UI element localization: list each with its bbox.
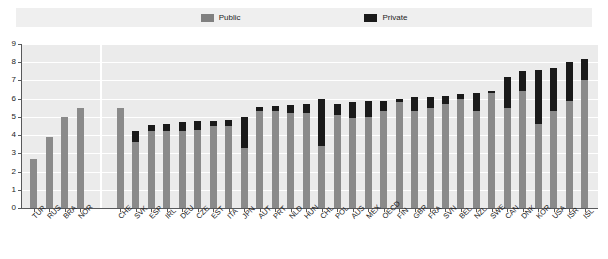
bar-segment-private [194,121,201,129]
bar-nor [77,108,84,208]
bar-segment-private [241,117,248,148]
bar-segment-public [473,111,480,208]
bar-segment-public [581,80,588,208]
bar-cze [194,121,201,208]
bar-est [210,121,217,208]
bar-segment-private [287,105,294,113]
bar-chl [318,99,325,208]
gridline [22,62,598,63]
bar-segment-private [318,99,325,146]
bar-segment-private [457,94,464,99]
bar-segment-public [194,130,201,208]
bar-rus [46,137,53,208]
bar-bel [457,94,464,208]
bar-segment-public [163,131,170,208]
bar-segment-public [380,111,387,208]
bar-fra [427,97,434,208]
legend-item-private: Private [364,13,407,22]
bar-oecd [380,101,387,209]
group-divider [100,44,102,208]
bar-hun [303,104,310,208]
bar-segment-public [287,113,294,208]
bar-gbr [411,97,418,208]
legend-swatch-private [364,14,377,22]
bar-bra [61,117,68,208]
bar-nzl [473,93,480,208]
bar-segment-private [334,104,341,115]
bar-fin [396,99,403,208]
bar-segment-private [427,97,434,108]
bar-segment-private [566,62,573,100]
bar-aut [256,107,263,208]
bar-svk [132,131,139,208]
bar-dnk [519,71,526,208]
bar-segment-public [411,111,418,208]
bar-segment-public [349,118,356,208]
bar-segment-private [550,68,557,112]
bar-segment-public [427,108,434,208]
bar-segment-public [457,99,464,208]
bar-segment-public [550,111,557,208]
gridline [22,117,598,118]
gridline [22,190,598,191]
bar-tur [30,159,37,208]
y-tick-label: 5 [2,113,16,121]
y-tick-label: 4 [2,131,16,139]
bar-segment-public [488,93,495,208]
bar-segment-private [473,93,480,111]
bar-esp [148,125,155,208]
chart-root: Public Private 0123456789 TURRUSBRANORCH… [0,0,608,259]
bar-segment-private [256,107,263,112]
chart-legend: Public Private [16,8,592,27]
bar-segment-public [132,142,139,208]
bar-isr [566,62,573,208]
y-tick-label: 7 [2,76,16,84]
bar-pol [334,104,341,208]
y-tick-label: 8 [2,58,16,66]
bar-segment-private [396,99,403,103]
gridline [22,135,598,136]
bar-segment-private [365,101,372,116]
bar-swe [488,91,495,208]
bar-segment-private [210,121,217,126]
bar-segment-public [535,124,542,208]
legend-label-public: Public [219,13,241,22]
bar-segment-private [132,131,139,142]
bar-isl [581,59,588,208]
y-tick-label: 9 [2,40,16,48]
gridline [22,80,598,81]
bar-segment-private [349,102,356,117]
y-tick-label: 6 [2,95,16,103]
bar-can [504,77,511,208]
bar-segment-public [148,131,155,208]
bar-segment-public [519,91,526,208]
bar-jpn [241,117,248,208]
bar-segment-private [411,97,418,112]
bar-segment-public [504,108,511,208]
bar-usa [550,68,557,208]
bar-segment-private [272,106,279,111]
bar-segment-private [519,71,526,91]
bar-segment-public [179,131,186,208]
bar-segment-public [318,146,325,208]
bar-segment-private [163,124,170,130]
bar-segment-private [581,59,588,81]
y-axis-line [21,44,22,209]
bar-segment-public [442,104,449,208]
bar-segment-private [303,104,310,113]
bar-segment-public [396,102,403,208]
bar-segment-public [225,126,232,208]
bar-segment-private [148,125,155,131]
bar-segment-private [442,96,449,104]
bar-nld [287,105,294,208]
bar-deu [179,122,186,208]
y-tick-label: 2 [2,168,16,176]
bar-segment-public [46,137,53,208]
bar-segment-public [77,108,84,208]
bar-segment-private [225,120,232,126]
bar-prt [272,106,279,208]
bar-svn [442,96,449,208]
legend-swatch-public [201,14,214,22]
y-tick-label: 3 [2,149,16,157]
bar-segment-public [61,117,68,208]
